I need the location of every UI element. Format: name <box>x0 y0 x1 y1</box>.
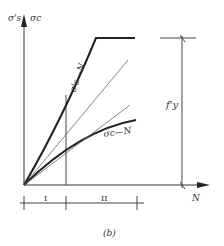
stage-label-2: II <box>101 194 107 203</box>
steel-stress-curve <box>24 38 135 185</box>
y-axis-label-concrete: σc <box>30 13 41 23</box>
stage-label-1: I <box>44 194 47 203</box>
y-axis-label-steel: σ's <box>8 13 22 23</box>
concrete-tangent-line <box>24 105 130 185</box>
steel-curve-label: σ's—N <box>67 61 87 94</box>
figure-caption: (b) <box>103 228 116 238</box>
x-axis-arrow-icon <box>197 182 210 188</box>
x-axis-label: N <box>191 193 201 203</box>
yield-label: f'y <box>165 99 178 110</box>
y-axis-arrow-icon <box>21 14 27 27</box>
diagram-canvas: σ's σc N σ's—N σc—N f'y I II (b) <box>0 0 224 246</box>
